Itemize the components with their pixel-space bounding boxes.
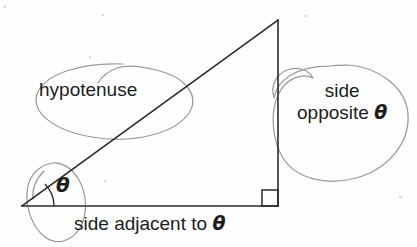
- right-angle-marker-icon: [262, 190, 278, 206]
- theta-symbol-angle: θ: [56, 175, 70, 197]
- label-side-opposite: side opposite θ: [297, 81, 387, 123]
- hypotenuse-loop-icon: [36, 64, 193, 139]
- label-side-opposite-prefix: opposite: [297, 102, 374, 123]
- label-side-adjacent-prefix: side adjacent to: [74, 213, 212, 234]
- label-side-opposite-line1: side: [297, 81, 387, 102]
- label-side-adjacent: side adjacent to θ: [74, 213, 225, 235]
- theta-symbol-adjacent: θ: [212, 212, 225, 234]
- theta-angle-arc-icon: [45, 184, 54, 206]
- label-side-opposite-line2: opposite θ: [297, 102, 387, 124]
- trigonometry-triangle-figure: hypotenuse side opposite θ side adjacent…: [0, 0, 417, 247]
- theta-symbol-opposite: θ: [374, 101, 387, 123]
- label-hypotenuse: hypotenuse: [39, 80, 137, 101]
- triangle-diagram-canvas: [0, 0, 417, 247]
